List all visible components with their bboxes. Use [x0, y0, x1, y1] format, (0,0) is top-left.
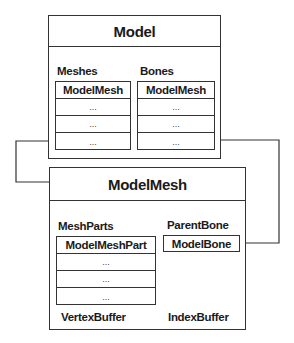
meshes-header: ModelMesh [56, 82, 130, 99]
meshes-row: ... [56, 116, 130, 133]
bones-label: Bones [140, 65, 174, 77]
modelmesh-title: ModelMesh [50, 168, 245, 201]
meshparts-label: MeshParts [58, 220, 113, 232]
bones-list: ModelMesh ... ... ... [137, 81, 215, 150]
meshes-row: ... [56, 133, 130, 150]
bones-row: ... [138, 116, 214, 133]
meshes-row: ... [56, 99, 130, 116]
meshparts-row: ... [57, 254, 155, 271]
bones-row: ... [138, 99, 214, 116]
meshparts-row: ... [57, 288, 155, 305]
modelbone-box: ModelBone [163, 235, 240, 252]
vertexbuffer-label: VertexBuffer [61, 311, 126, 323]
meshes-label: Meshes [57, 65, 97, 77]
model-title: Model [49, 16, 220, 47]
indexbuffer-label: IndexBuffer [168, 311, 229, 323]
bones-header: ModelMesh [138, 82, 214, 99]
meshparts-header: ModelMeshPart [57, 237, 155, 254]
bones-row: ... [138, 133, 214, 150]
meshparts-row: ... [57, 271, 155, 288]
meshparts-list: ModelMeshPart ... ... ... [56, 236, 156, 305]
meshes-list: ModelMesh ... ... ... [55, 81, 131, 150]
parentbone-label: ParentBone [167, 219, 229, 231]
